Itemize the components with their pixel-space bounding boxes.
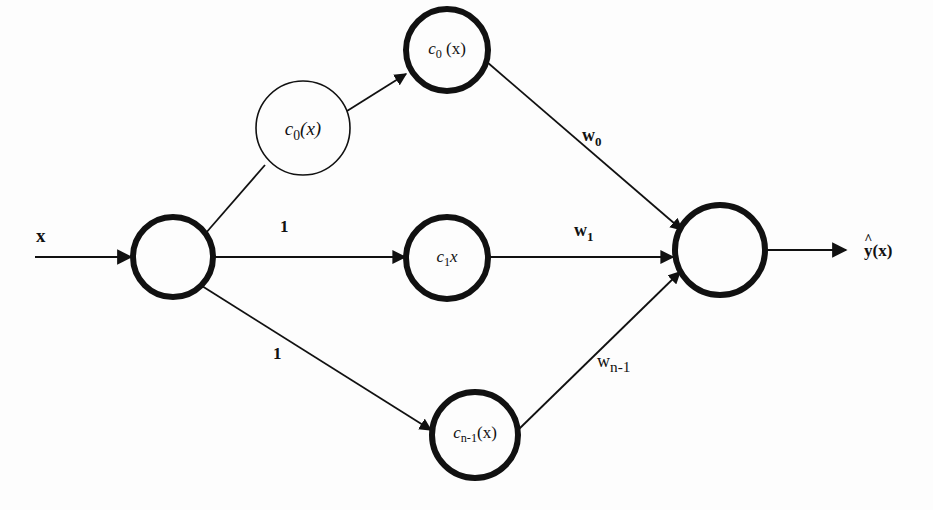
output-node (675, 205, 765, 295)
edge-weight-w0: w0 (582, 126, 601, 144)
edge-input-to-bottom (202, 286, 431, 430)
top-node-label-sub: 0 (436, 47, 442, 61)
output-label-yhat: ^y (864, 242, 873, 259)
middle-node-label-arg: x (450, 247, 458, 266)
input-label: x (36, 226, 46, 245)
helper-node-label-sub: 0 (293, 127, 300, 142)
output-label-arg: (x) (873, 241, 893, 260)
input-node (133, 217, 213, 297)
edge-weight-wn-1-base: w (597, 351, 610, 371)
edge-weight-w1-base: w (574, 220, 587, 240)
edge-weight-input-middle: 1 (280, 218, 289, 235)
edge-weight-input-bottom: 1 (273, 345, 282, 362)
top-node-label-arg: (x) (442, 39, 466, 58)
top-node-label: c0 (x) (428, 40, 466, 57)
helper-node-label-arg: (x) (300, 118, 321, 139)
edge-weight-wn-1: wn-1 (597, 352, 630, 370)
edge-weight-w1: w1 (574, 221, 593, 239)
hat-accent-icon: ^ (864, 233, 872, 247)
middle-node-label-sub: 1 (444, 255, 450, 269)
bottom-node-label: cn-1(x) (453, 424, 497, 441)
output-label: ^y(x) (864, 242, 892, 259)
top-node-label-base: c (428, 39, 436, 58)
helper-node-label: c0(x) (285, 119, 321, 138)
middle-node-label: c1x (436, 248, 457, 265)
edge-input-to-helper (205, 165, 265, 234)
edge-helper-to-top (347, 74, 406, 111)
edge-weight-w1-sub: 1 (587, 229, 593, 244)
middle-node-label-base: c (436, 247, 444, 266)
edge-weight-wn-1-sub: n-1 (610, 358, 630, 375)
edge-top-to-output (487, 62, 682, 230)
bottom-node-label-arg: (x) (477, 423, 497, 442)
bottom-node-label-sub: n-1 (461, 431, 477, 445)
edge-weight-w0-sub: 0 (595, 134, 601, 149)
bottom-node-label-base: c (453, 423, 461, 442)
edge-weight-w0-base: w (582, 125, 595, 145)
